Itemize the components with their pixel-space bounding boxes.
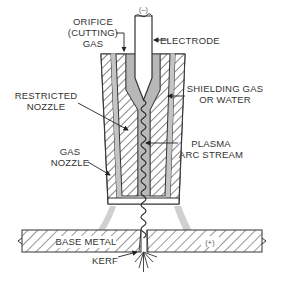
orifice-label-1: ORIFICE — [73, 16, 113, 27]
electrode-label: ELECTRODE — [160, 35, 220, 46]
base-metal-label: BASE METAL — [56, 236, 117, 247]
plasma-arc-label-1: PLASMA — [191, 138, 231, 149]
electrode-polarity: (–) — [139, 6, 148, 14]
orifice-label-3: GAS — [83, 38, 104, 49]
plasma-arc-label-2: ARC STREAM — [179, 149, 243, 160]
gas-nozzle-label-2: NOZZLE — [51, 157, 90, 168]
base-metal-polarity: (+) — [205, 239, 214, 247]
kerf-label: KERF — [92, 255, 118, 266]
gas-nozzle-label-1: GAS — [60, 146, 81, 157]
shielding-gas-label-2: OR WATER — [199, 94, 251, 105]
shielding-gas-label-1: SHIELDING GAS — [187, 83, 264, 94]
restricted-nozzle-label-1: RESTRICTED — [15, 90, 78, 101]
plasma-torch-diagram: ORIFICE (CUTTING) GAS (–) ELECTRODE REST… — [0, 0, 284, 281]
orifice-label-2: (CUTTING) — [68, 27, 118, 38]
restricted-nozzle-label-2: NOZZLE — [27, 101, 66, 112]
